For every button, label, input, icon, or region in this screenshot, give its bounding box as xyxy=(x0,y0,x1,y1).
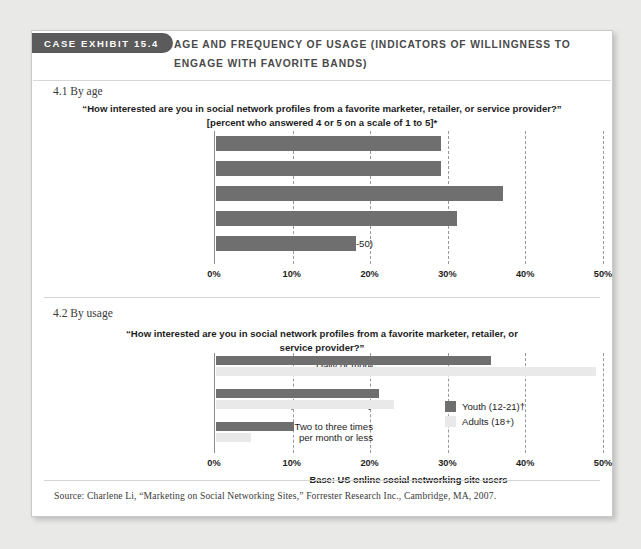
chart2-plot-area: Daily or moreTwo to three timesper week … xyxy=(214,353,603,453)
x-tick-label: 30% xyxy=(438,458,456,468)
bar xyxy=(216,422,294,431)
gridline xyxy=(525,131,526,264)
footer-divider xyxy=(44,480,600,481)
exhibit-card: CASE EXHIBIT 15.4 AGE AND FREQUENCY OF U… xyxy=(31,30,613,517)
x-tick-label: 10% xyxy=(283,458,301,468)
section-label-by-age: 4.1 By age xyxy=(53,85,103,97)
legend-swatch xyxy=(445,401,456,412)
x-tick-label: 0% xyxy=(207,269,220,279)
gridline xyxy=(603,353,604,453)
x-tick-label: 40% xyxy=(516,269,534,279)
chart2-legend: Youth (12-21)†Adults (18+) xyxy=(445,399,525,429)
legend-swatch xyxy=(445,416,456,427)
chart-by-age: Teenagers (12-17)†Young Adults (18-21)†G… xyxy=(53,131,603,286)
x-tick-label: 40% xyxy=(516,458,534,468)
legend-item: Youth (12-21)† xyxy=(445,399,525,414)
x-tick-label: 50% xyxy=(594,269,612,279)
x-tick-label: 50% xyxy=(594,458,612,468)
bar xyxy=(216,161,441,176)
x-tick-label: 20% xyxy=(360,269,378,279)
bar xyxy=(216,236,356,251)
x-tick-label: 30% xyxy=(438,269,456,279)
chart2-x-axis: 0%10%20%30%40%50% xyxy=(214,455,603,475)
x-tick-label: 20% xyxy=(360,458,378,468)
chart1-x-axis: 0%10%20%30%40%50% xyxy=(214,266,603,286)
section-label-by-usage: 4.2 By usage xyxy=(53,307,113,319)
bar xyxy=(216,356,491,365)
bar xyxy=(216,367,596,376)
chart1-plot-area: Teenagers (12-17)†Young Adults (18-21)†G… xyxy=(214,131,603,264)
bar xyxy=(216,400,394,409)
bar xyxy=(216,211,457,226)
chart-by-usage: Daily or moreTwo to three timesper week … xyxy=(53,353,603,475)
exhibit-page: CASE EXHIBIT 15.4 AGE AND FREQUENCY OF U… xyxy=(0,0,641,549)
header-divider xyxy=(33,80,611,81)
gridline xyxy=(603,131,604,264)
bar xyxy=(216,136,441,151)
chart1-title: “How interested are you in social networ… xyxy=(72,102,572,129)
chart2-title: “How interested are you in social networ… xyxy=(112,327,532,354)
exhibit-title: AGE AND FREQUENCY OF USAGE (INDICATORS O… xyxy=(174,35,594,73)
section-divider xyxy=(44,297,600,298)
source-note: Source: Charlene Li, “Marketing on Socia… xyxy=(54,490,496,501)
legend-label: Adults (18+) xyxy=(462,416,514,427)
exhibit-tab-badge: CASE EXHIBIT 15.4 xyxy=(32,33,173,53)
bar xyxy=(216,389,379,398)
bar xyxy=(216,433,251,442)
category-label: Two to three timesper month or less xyxy=(295,421,373,444)
x-tick-label: 0% xyxy=(207,458,220,468)
legend-item: Adults (18+) xyxy=(445,414,525,429)
legend-label: Youth (12-21)† xyxy=(462,401,525,412)
bar xyxy=(216,186,503,201)
x-tick-label: 10% xyxy=(283,269,301,279)
